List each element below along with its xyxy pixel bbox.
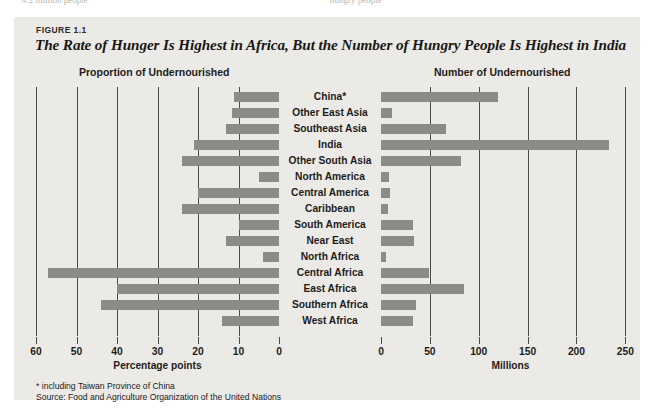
x-tick-number-of-undernourished-150: [528, 337, 529, 344]
bar-number-of-undernourished-caribbean: [381, 204, 388, 214]
x-tick-label-proportion-of-undernourished-30: 30: [152, 346, 163, 357]
bar-row: [381, 137, 640, 153]
x-tick-number-of-undernourished-100: [479, 337, 480, 344]
bar-proportion-of-undernourished-india: [194, 140, 279, 150]
x-tick-label-number-of-undernourished-50: 50: [424, 346, 435, 357]
bar-proportion-of-undernourished-centralafrica: [48, 268, 279, 278]
bar-row: [36, 169, 279, 185]
bar-proportion-of-undernourished-china: [234, 92, 279, 102]
bar-row: [381, 201, 640, 217]
category-label-centralamerica: Central America: [279, 187, 381, 198]
bar-number-of-undernourished-neareast: [381, 236, 414, 246]
bar-proportion-of-undernourished-caribbean: [182, 204, 279, 214]
bar-number-of-undernourished-southernafrica: [381, 300, 416, 310]
category-label-northafrica: North Africa: [279, 251, 381, 262]
category-label-caribbean: Caribbean: [279, 203, 381, 214]
x-tick-label-proportion-of-undernourished-40: 40: [111, 346, 122, 357]
category-label-southernafrica: Southern Africa: [279, 299, 381, 310]
bar-row: [381, 233, 640, 249]
x-tick-proportion-of-undernourished-50: [77, 337, 78, 344]
bar-proportion-of-undernourished-eastafrica: [117, 284, 279, 294]
right-panel-heading: Number of Undernourished: [434, 66, 571, 78]
x-tick-proportion-of-undernourished-20: [198, 337, 199, 344]
bar-number-of-undernourished-northamerica: [381, 172, 389, 182]
bar-number-of-undernourished-westafrica: [381, 316, 413, 326]
bar-row: [381, 153, 640, 169]
bar-row: [381, 217, 640, 233]
figure-panel: FIGURE 1.1 The Rate of Hunger Is Highest…: [14, 17, 640, 400]
bar-number-of-undernourished-centralafrica: [381, 268, 429, 278]
bar-row: [381, 185, 640, 201]
x-tick-label-proportion-of-undernourished-10: 10: [233, 346, 244, 357]
figure-title: The Rate of Hunger Is Highest in Africa,…: [35, 36, 626, 54]
bar-number-of-undernourished-china: [381, 92, 498, 102]
bar-proportion-of-undernourished-southernafrica: [101, 300, 279, 310]
bar-row: [36, 233, 279, 249]
bar-proportion-of-undernourished-westafrica: [222, 316, 279, 326]
category-label-southeastasia: Southeast Asia: [279, 123, 381, 134]
figure-number-label: FIGURE 1.1: [36, 25, 87, 35]
bar-row: [36, 105, 279, 121]
bar-proportion-of-undernourished-centralamerica: [198, 188, 279, 198]
bar-row: [36, 313, 279, 329]
bar-proportion-of-undernourished-northamerica: [259, 172, 279, 182]
bar-number-of-undernourished-southamerica: [381, 220, 413, 230]
bar-row: [381, 105, 640, 121]
bar-row: [36, 153, 279, 169]
x-tick-proportion-of-undernourished-0: [279, 337, 280, 344]
number-chart-x-axis: 050100150200250Millions: [381, 337, 640, 363]
x-tick-label-number-of-undernourished-150: 150: [519, 346, 536, 357]
category-label-southamerica: South America: [279, 219, 381, 230]
category-label-westafrica: West Africa: [279, 315, 381, 326]
bar-number-of-undernourished-othersouthasia: [381, 156, 461, 166]
bar-row: [36, 249, 279, 265]
bar-row: [381, 89, 640, 105]
bar-row: [381, 169, 640, 185]
x-tick-label-number-of-undernourished-250: 250: [617, 346, 634, 357]
x-axis-title-number-of-undernourished: Millions: [492, 360, 530, 371]
x-tick-proportion-of-undernourished-10: [239, 337, 240, 344]
bar-number-of-undernourished-india: [381, 140, 609, 150]
category-label-othereastasia: Other East Asia: [279, 107, 381, 118]
x-tick-label-proportion-of-undernourished-20: 20: [192, 346, 203, 357]
figure-footnote: * including Taiwan Province of China: [36, 381, 175, 391]
category-label-eastafrica: East Africa: [279, 283, 381, 294]
page-top-cutoff-text-left: 4.2 million people: [22, 0, 88, 5]
bar-row: [381, 313, 640, 329]
bar-row: [36, 89, 279, 105]
bar-row: [36, 121, 279, 137]
proportion-chart-plot-area: [36, 87, 279, 336]
bar-number-of-undernourished-northafrica: [381, 252, 386, 262]
bar-proportion-of-undernourished-othereastasia: [232, 108, 279, 118]
x-tick-label-number-of-undernourished-200: 200: [568, 346, 585, 357]
x-tick-label-number-of-undernourished-100: 100: [470, 346, 487, 357]
left-panel-heading: Proportion of Undernourished: [79, 66, 230, 78]
bar-row: [381, 281, 640, 297]
bar-row: [36, 137, 279, 153]
page-top-cutoff-text: 4.2 million people hungry people: [0, 0, 654, 12]
figure-source: Source: Food and Agriculture Organizatio…: [36, 392, 281, 402]
bar-row: [36, 281, 279, 297]
page-top-cutoff-text-right: hungry people: [330, 0, 382, 5]
x-tick-number-of-undernourished-200: [576, 337, 577, 344]
category-axis-labels: China*Other East AsiaSoutheast AsiaIndia…: [279, 87, 381, 336]
proportion-chart-x-axis: 6050403020100Percentage points: [36, 337, 279, 363]
category-label-neareast: Near East: [279, 235, 381, 246]
bar-row: [36, 185, 279, 201]
bar-number-of-undernourished-eastafrica: [381, 284, 464, 294]
x-tick-proportion-of-undernourished-60: [36, 337, 37, 344]
number-chart-plot-area: [381, 87, 640, 336]
bar-number-of-undernourished-centralamerica: [381, 188, 390, 198]
x-tick-label-proportion-of-undernourished-60: 60: [30, 346, 41, 357]
bar-row: [381, 265, 640, 281]
x-tick-number-of-undernourished-0: [381, 337, 382, 344]
bar-row: [36, 201, 279, 217]
bar-proportion-of-undernourished-northafrica: [263, 252, 279, 262]
bar-row: [36, 265, 279, 281]
bar-row: [381, 121, 640, 137]
bar-number-of-undernourished-southeastasia: [381, 124, 446, 134]
bar-row: [381, 249, 640, 265]
category-label-india: India: [279, 139, 381, 150]
x-tick-number-of-undernourished-250: [625, 337, 626, 344]
x-tick-proportion-of-undernourished-30: [158, 337, 159, 344]
